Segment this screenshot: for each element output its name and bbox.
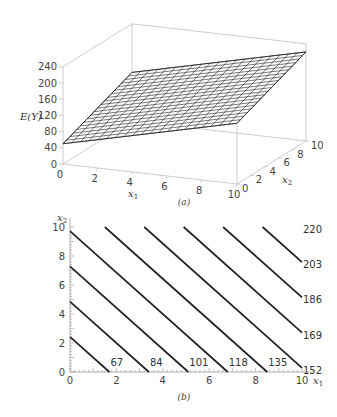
contour-label: 135 bbox=[268, 357, 287, 368]
contour-label: 84 bbox=[150, 357, 163, 368]
x1-tick-label: 10 bbox=[228, 189, 241, 200]
x2-tick-label: 8 bbox=[297, 149, 303, 160]
contour-label: 152 bbox=[303, 365, 322, 376]
caption-a: (a) bbox=[178, 197, 191, 207]
x1-tick-label: 4 bbox=[126, 177, 132, 188]
contour-label: 186 bbox=[303, 294, 322, 305]
contour-label: 101 bbox=[189, 357, 208, 368]
x2-tick-label: 2 bbox=[59, 338, 65, 349]
contour-line bbox=[223, 227, 302, 297]
contour-label: 67 bbox=[110, 357, 123, 368]
z-tick-label: 160 bbox=[38, 94, 57, 105]
x1-tick-label: 6 bbox=[161, 181, 167, 192]
x2-tick-label: 0 bbox=[242, 183, 248, 194]
contour-line bbox=[70, 231, 228, 372]
x1-tick-label: 0 bbox=[67, 375, 73, 386]
contour-label: 118 bbox=[229, 357, 248, 368]
z-tick-label: 80 bbox=[44, 126, 57, 137]
z-axis-label: E(Y) bbox=[19, 111, 42, 122]
contour-line bbox=[105, 227, 267, 372]
x2-tick-label: 6 bbox=[283, 157, 289, 168]
contour-line bbox=[144, 227, 302, 368]
x1-tick-label: 8 bbox=[252, 375, 258, 386]
x2-tick-label: 10 bbox=[311, 140, 324, 151]
x1-axis-label: x1 bbox=[313, 375, 323, 388]
x1-tick-label: 0 bbox=[57, 169, 63, 180]
x2-axis-label: x2 bbox=[282, 174, 292, 187]
x1-tick-label: 8 bbox=[196, 185, 202, 196]
z-tick-label: 240 bbox=[38, 61, 57, 72]
x1-tick-label: 2 bbox=[92, 173, 98, 184]
z-tick-label: 40 bbox=[44, 142, 57, 153]
z-tick-label: 200 bbox=[38, 78, 57, 89]
x1-tick-label: 10 bbox=[296, 375, 309, 386]
z-tick-label: 0 bbox=[51, 159, 57, 170]
contour-plot: 02468100246810x1x26784101118135152169186… bbox=[52, 212, 323, 388]
contour-label: 203 bbox=[303, 259, 322, 270]
surface-plot: 04080120160200240E(Y)0246810x10246810x2 bbox=[19, 24, 324, 201]
contour-label: 169 bbox=[303, 330, 322, 341]
contour-line bbox=[184, 227, 302, 333]
x2-tick-label: 0 bbox=[59, 367, 65, 378]
x2-tick-label: 2 bbox=[256, 174, 262, 185]
x2-tick-label: 6 bbox=[59, 280, 65, 291]
x1-tick-label: 2 bbox=[113, 375, 119, 386]
x2-tick-label: 8 bbox=[59, 251, 65, 262]
x2-tick-label: 4 bbox=[270, 166, 276, 177]
figure: 04080120160200240E(Y)0246810x10246810x2 … bbox=[0, 0, 337, 417]
x1-tick-label: 4 bbox=[160, 375, 166, 386]
x2-tick-label: 4 bbox=[59, 309, 65, 320]
contour-line bbox=[70, 337, 109, 372]
contour-label: 220 bbox=[303, 224, 322, 235]
x1-axis-label: x1 bbox=[128, 188, 138, 201]
caption-b: (b) bbox=[178, 392, 191, 402]
contour-line bbox=[263, 227, 302, 262]
contour-line bbox=[70, 266, 188, 372]
x1-tick-label: 6 bbox=[206, 375, 212, 386]
contour-line bbox=[70, 302, 149, 372]
